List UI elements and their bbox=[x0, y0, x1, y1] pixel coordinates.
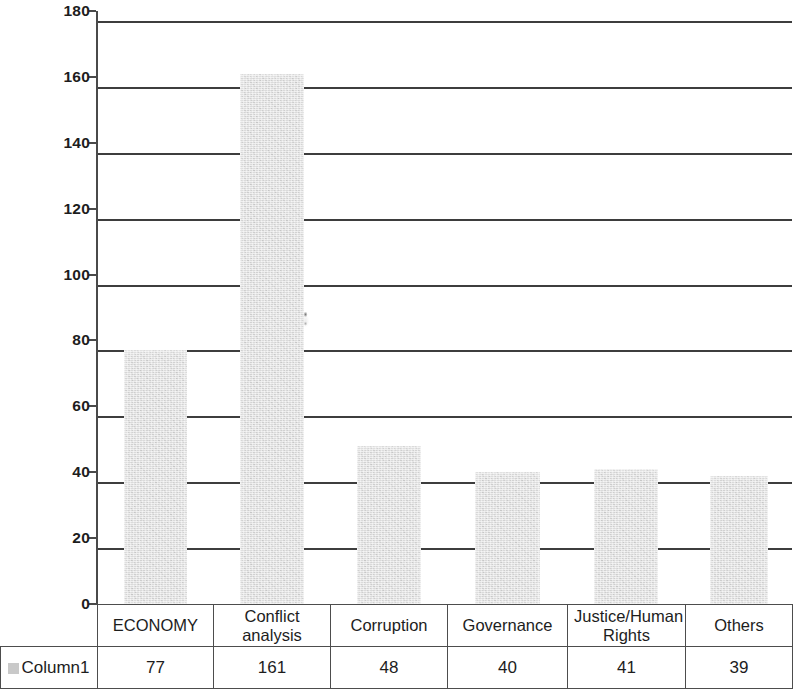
table-value-cell-4: 41 bbox=[568, 647, 686, 689]
gridline-180 bbox=[97, 21, 792, 23]
gridline-60 bbox=[97, 416, 792, 418]
y-tick-180 bbox=[89, 10, 96, 12]
y-axis-label-40: 40 bbox=[20, 464, 90, 480]
y-axis-label-60: 60 bbox=[20, 398, 90, 414]
table-value-cell-0: 77 bbox=[98, 647, 214, 689]
y-axis-label-140: 140 bbox=[20, 135, 90, 151]
y-tick-160 bbox=[89, 76, 96, 78]
table-header-cell-4: Justice/Human Rights bbox=[568, 605, 686, 647]
y-axis-label-160: 160 bbox=[20, 69, 90, 85]
y-tick-60 bbox=[89, 405, 96, 407]
table-value-cell-5: 39 bbox=[686, 647, 793, 689]
y-tick-20 bbox=[89, 537, 96, 539]
table-header-cell-1: Conflict analysis bbox=[214, 605, 331, 647]
gridline-140 bbox=[97, 153, 792, 155]
y-axis-label-80: 80 bbox=[20, 332, 90, 348]
table-row-categories: ECONOMY Conflict analysis Corruption Gov… bbox=[1, 605, 793, 647]
table-row-values: Column1 77 161 48 40 41 39 bbox=[1, 647, 793, 689]
gridline-160 bbox=[97, 87, 792, 89]
y-tick-40 bbox=[89, 471, 96, 473]
y-tick-140 bbox=[89, 142, 96, 144]
y-tick-80 bbox=[89, 339, 96, 341]
table-value-cell-1: 161 bbox=[214, 647, 331, 689]
bar-conflict-analysis bbox=[240, 74, 304, 604]
table-corner-spacer bbox=[1, 605, 98, 647]
bar-economy bbox=[124, 350, 187, 604]
table-header-cell-5: Others bbox=[686, 605, 793, 647]
gridline-80 bbox=[97, 350, 792, 352]
bar-corruption bbox=[357, 446, 421, 604]
chart-data-table: ECONOMY Conflict analysis Corruption Gov… bbox=[0, 604, 793, 689]
y-tick-120 bbox=[89, 208, 96, 210]
table-header-cell-3: Governance bbox=[448, 605, 568, 647]
gridline-40 bbox=[97, 482, 792, 484]
y-axis-label-180: 180 bbox=[20, 3, 90, 19]
gridline-100 bbox=[97, 285, 792, 287]
table-header-cell-0: ECONOMY bbox=[98, 605, 214, 647]
gridline-120 bbox=[97, 219, 792, 221]
y-axis-label-120: 120 bbox=[20, 201, 90, 217]
bar-justice-human-rights bbox=[594, 469, 658, 604]
table-value-cell-3: 40 bbox=[448, 647, 568, 689]
legend-entry: Column1 bbox=[1, 647, 98, 689]
bar-governance bbox=[475, 472, 540, 604]
table-header-cell-2: Corruption bbox=[331, 605, 448, 647]
plot-area bbox=[97, 11, 792, 604]
y-axis-label-100: 100 bbox=[20, 267, 90, 283]
y-tick-100 bbox=[89, 274, 96, 276]
table-value-cell-2: 48 bbox=[331, 647, 448, 689]
gridline-20 bbox=[97, 548, 792, 550]
legend-label: Column1 bbox=[21, 658, 89, 677]
bar-others bbox=[710, 476, 768, 604]
y-axis-line bbox=[96, 11, 98, 605]
y-axis-label-20: 20 bbox=[20, 530, 90, 546]
legend-swatch-icon bbox=[8, 663, 19, 674]
